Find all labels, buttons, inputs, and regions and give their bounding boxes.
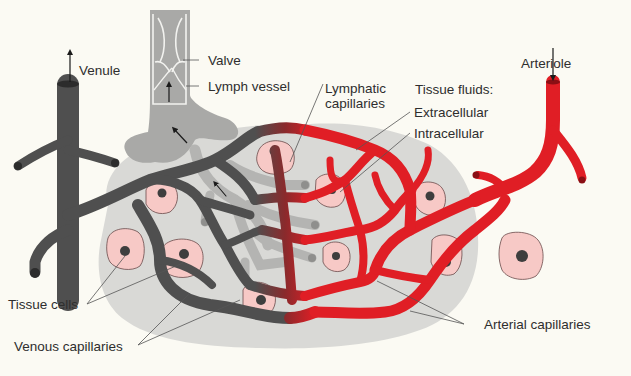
label-tissue-cells: Tissue cells <box>8 298 78 312</box>
label-venous-capillaries: Venous capillaries <box>14 340 123 354</box>
arteriole <box>475 82 553 200</box>
label-arteriole: Arteriole <box>521 57 571 71</box>
tissue-cell <box>323 242 350 272</box>
label-intracellular: Intracellular <box>414 127 484 141</box>
label-lymphatic-capillaries: Lymphatic capillaries <box>325 81 386 111</box>
label-extracellular: Extracellular <box>414 106 488 120</box>
label-tissue-fluids: Tissue fluids: <box>415 83 493 97</box>
tissue-cell <box>499 232 543 279</box>
tissue-cell <box>107 229 145 270</box>
label-valve: Valve <box>208 54 241 68</box>
label-lymph-vessel: Lymph vessel <box>208 80 290 94</box>
label-venule: Venule <box>79 64 120 78</box>
label-arterial-capillaries: Arterial capillaries <box>484 318 591 332</box>
